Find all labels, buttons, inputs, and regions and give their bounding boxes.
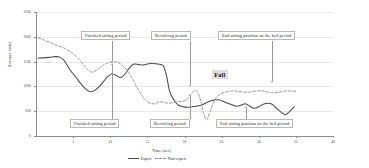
legend-label-expert: Expert xyxy=(141,156,152,161)
annotation-fall: Fall xyxy=(212,70,228,79)
annotation-finished-sitting-bottom: Finished sitting period xyxy=(70,119,119,128)
annotation-revolving-top: Revolving period xyxy=(151,31,191,40)
series-line-expert xyxy=(38,57,294,115)
leader-end-sitting-top xyxy=(272,41,273,81)
legend-swatch-non-expert xyxy=(155,158,166,159)
leader-revolving-top xyxy=(190,41,191,85)
leader-finished-sitting-bottom xyxy=(112,65,113,119)
annotation-end-sitting-top: End sitting position on the bed period xyxy=(218,31,295,40)
distance-time-chart: Distance (mm) 05001000150020002500 51015… xyxy=(0,0,369,168)
leader-finished-sitting-top xyxy=(112,41,113,61)
x-axis-title: Time (sec) xyxy=(152,148,171,153)
annotation-finished-sitting-top: Finished sitting period xyxy=(81,31,130,40)
leader-end-sitting-bottom xyxy=(246,108,247,119)
chart-legend: Expert Non-expert xyxy=(128,156,186,161)
legend-item-non-expert: Non-expert xyxy=(155,156,186,161)
legend-label-non-expert: Non-expert xyxy=(168,156,186,161)
legend-item-expert: Expert xyxy=(128,156,151,161)
leader-revolving-bottom xyxy=(190,96,191,119)
series-plot-area xyxy=(0,0,369,168)
annotation-end-sitting-bottom: End sitting position on the bed period xyxy=(216,119,293,128)
annotation-revolving-bottom: Revolving period xyxy=(150,119,190,128)
legend-swatch-expert xyxy=(128,158,139,159)
